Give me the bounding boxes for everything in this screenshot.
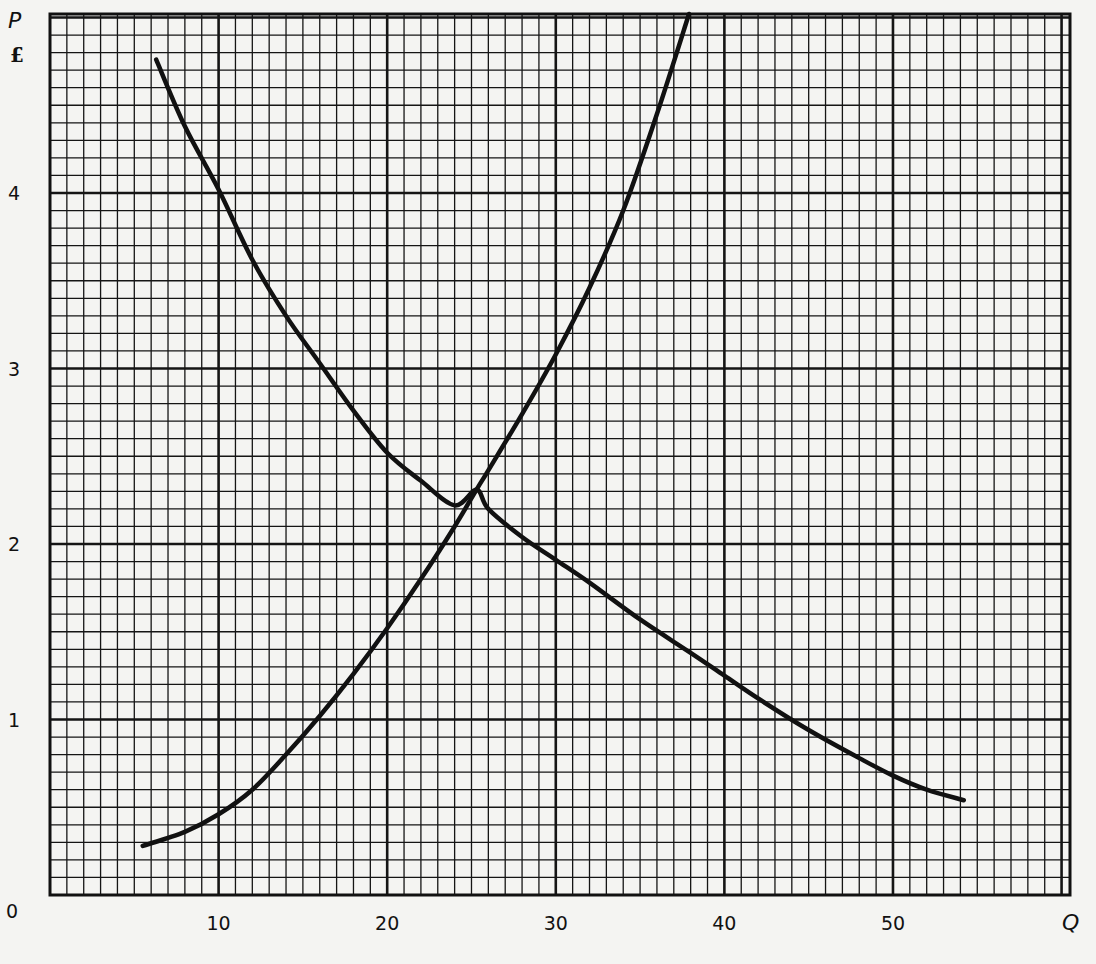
x-axis-title: Q [1062, 910, 1079, 935]
x-tick-label: 40 [712, 912, 736, 934]
y-tick-label: 1 [8, 709, 20, 731]
supply-demand-chart: P £ 0 Q 10 20 30 40 50 1 2 3 4 [0, 0, 1096, 964]
y-axis-unit-label: £ [10, 43, 24, 67]
origin-label: 0 [6, 900, 18, 922]
x-tick-label: 50 [881, 912, 905, 934]
grid-minor-lines [50, 14, 1070, 895]
x-axis-tick-labels: 10 20 30 40 50 [207, 912, 906, 934]
x-tick-label: 30 [544, 912, 568, 934]
supply-curve [143, 14, 689, 846]
grid-major-lines [50, 14, 1070, 895]
y-tick-label: 2 [8, 533, 20, 555]
y-tick-label: 4 [8, 182, 20, 204]
plot-border [50, 14, 1070, 895]
y-axis-tick-labels: 1 2 3 4 [8, 182, 20, 730]
y-axis-title: P [8, 8, 22, 33]
x-tick-label: 20 [375, 912, 399, 934]
y-tick-label: 3 [8, 358, 20, 380]
curves [143, 14, 964, 846]
x-tick-label: 10 [207, 912, 231, 934]
